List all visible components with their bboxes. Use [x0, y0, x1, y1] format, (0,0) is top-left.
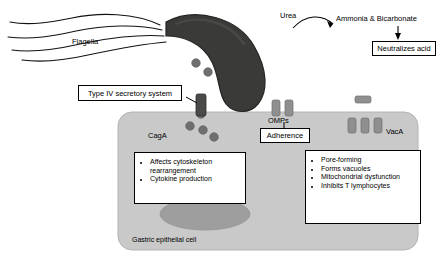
- flagella-label: Flagella: [72, 38, 98, 47]
- list-item: Mitochondrial dysfunction: [321, 173, 414, 182]
- list-item: Affects cytoskeleton rearrangement: [150, 158, 239, 175]
- list-item: Forms vacuoles: [321, 165, 414, 174]
- urea-to-ammonia-arrow: [293, 17, 333, 28]
- type-iv-secretory-system-box: Type IV secretory system: [78, 85, 182, 101]
- caga-effects-box: Affects cytoskeleton rearrangement Cytok…: [134, 152, 246, 204]
- list-item: Pore-forming: [321, 156, 414, 165]
- vaca-effects-box: Pore-forming Forms vacuoles Mitochondria…: [305, 150, 421, 224]
- neutralizes-acid-box: Neutralizes acid: [372, 41, 436, 56]
- ammonia-to-neutralizes-arrow: [395, 26, 401, 40]
- gastric-epithelial-cell-label: Gastric epithelial cell: [132, 236, 196, 244]
- figure-canvas: Flagella Urea Ammonia & Bicarbonate Neut…: [0, 0, 441, 256]
- urea-label: Urea: [280, 12, 296, 21]
- caga-label: CagA: [148, 132, 167, 141]
- list-item: Cytokine production: [150, 175, 239, 184]
- vaca-label: VacA: [386, 128, 403, 137]
- ammonia-bicarbonate-label: Ammonia & Bicarbonate: [336, 15, 417, 24]
- type-iv-secretion-pilus: [196, 94, 206, 116]
- caga-effects-list: Affects cytoskeleton rearrangement Cytok…: [139, 158, 239, 184]
- adherence-box: Adherence: [260, 128, 310, 143]
- vaca-effects-list: Pore-forming Forms vacuoles Mitochondria…: [310, 156, 414, 190]
- type-iv-connector: [186, 97, 197, 103]
- omps-label: OMPs: [268, 117, 289, 126]
- list-item: Inhibits T lymphocytes: [321, 182, 414, 191]
